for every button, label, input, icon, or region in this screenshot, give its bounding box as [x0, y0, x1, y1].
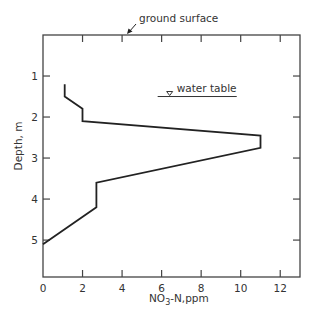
x-tick-label: 2 — [79, 282, 86, 294]
water-table-triangle-icon — [167, 92, 173, 96]
y-tick-label: 5 — [31, 234, 38, 246]
chart: 024681012 12345 water table ground surfa… — [0, 0, 316, 320]
y-axis-label: Depth, m — [12, 122, 24, 171]
ground-surface-label: ground surface — [139, 12, 218, 24]
ground-surface-arrow-icon — [127, 24, 136, 34]
x-tick-label: 4 — [119, 282, 126, 294]
x-tick-label: 12 — [274, 282, 287, 294]
x-tick-label: 0 — [40, 282, 47, 294]
x-axis-label: NO3-N,ppm — [149, 292, 209, 307]
x-axis-ticks — [83, 35, 281, 277]
y-tick-label: 4 — [31, 193, 38, 205]
y-tick-label: 2 — [31, 111, 38, 123]
x-tick-label: 10 — [234, 282, 247, 294]
nitrate-profile-line — [43, 84, 261, 244]
water-table-label: water table — [177, 82, 237, 94]
y-axis-ticks — [43, 76, 300, 240]
y-tick-label: 1 — [31, 70, 38, 82]
y-tick-label: 3 — [31, 152, 38, 164]
y-axis-tick-labels: 12345 — [31, 70, 38, 246]
plot-frame — [43, 35, 300, 277]
